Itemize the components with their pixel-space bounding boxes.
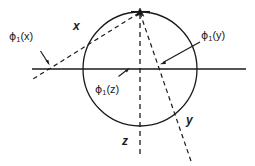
figure-container: ϕ1(x) ϕ1(y) ϕ1(z) x y z (0, 0, 255, 166)
phi-z-argument: (z) (106, 83, 119, 95)
phi-x-label: ϕ1(x) (9, 31, 33, 42)
phi-x-arrowhead-icon (46, 60, 50, 66)
phi-x-argument: (x) (20, 30, 33, 42)
axis-label-x: x (73, 20, 80, 32)
axis-label-z: z (122, 135, 128, 147)
phi-y-argument: (y) (212, 29, 225, 41)
phi-z-subscript: 1 (102, 88, 106, 97)
phi-y-subscript: 1 (208, 34, 212, 43)
phi-x-subscript: 1 (16, 35, 20, 44)
axis-label-y: y (186, 114, 193, 126)
phi-y-label: ϕ1(y) (201, 30, 225, 41)
phi-y-arrowhead-icon (160, 61, 166, 64)
y-axis-dashed-line (140, 13, 191, 161)
phi-z-label: ϕ1(z) (95, 84, 119, 95)
